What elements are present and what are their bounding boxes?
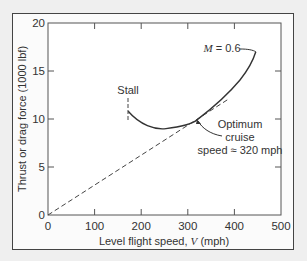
x-tick-0: 0 (45, 220, 51, 232)
x-tick-100: 100 (85, 220, 104, 232)
y-axis-label: Thrust or drag force (1000 lbf) (16, 46, 28, 192)
y-tick-0: 0 (39, 209, 45, 221)
optimum-label-2: cruise (225, 131, 254, 143)
x-tick-400: 400 (225, 220, 244, 232)
chart: 0 100 200 300 400 500 0 5 10 15 20 Level… (0, 0, 307, 261)
x-axis-label: Level flight speed, V (mph) (99, 235, 229, 247)
mach-label: M = 0.6 (203, 42, 241, 54)
optimum-label-1: Optimum (218, 118, 263, 130)
y-tick-20: 20 (32, 17, 45, 29)
x-tick-300: 300 (178, 220, 197, 232)
stall-label: Stall (117, 84, 138, 96)
x-tick-200: 200 (132, 220, 151, 232)
y-tick-10: 10 (32, 113, 45, 125)
optimum-label-3: speed ≈ 320 mph (198, 144, 283, 156)
y-tick-5: 5 (39, 161, 45, 173)
y-tick-15: 15 (32, 65, 45, 77)
x-tick-500: 500 (271, 220, 290, 232)
